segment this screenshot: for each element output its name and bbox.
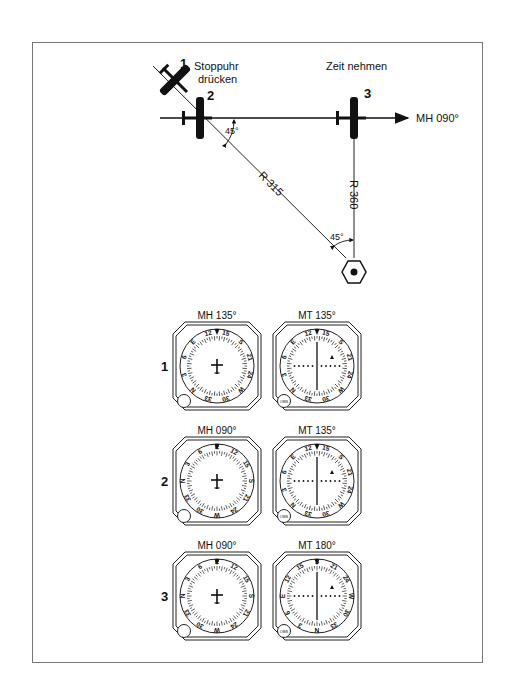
knob-icon (178, 395, 191, 408)
vor-caption-row-1: MT 135° (298, 310, 336, 321)
svg-text:N: N (314, 627, 319, 634)
navigation-diagram: 1 Stoppuhr drücken 2 Zeit nehmen 3 MH 09… (0, 0, 516, 699)
radial-360-label: R 360 (348, 180, 360, 209)
vor-caption-row-3: MT 180° (298, 540, 336, 551)
angle-label-top: 45° (225, 126, 239, 136)
svg-text:OBS: OBS (280, 514, 289, 519)
row-1-label: 1 (161, 359, 168, 374)
svg-text:N: N (179, 478, 186, 483)
position-2-label: 2 (207, 88, 214, 103)
svg-text:N: N (179, 593, 186, 598)
svg-text:OBS: OBS (280, 399, 289, 404)
radial-315-line (153, 66, 346, 258)
vor-indicator-row-1: N36E1215S2124W3033OBSMT 135° (264, 310, 371, 419)
row-2-label: 2 (161, 474, 168, 489)
airplane-position-3-icon (336, 97, 366, 139)
heading-indicator-row-1: N36E1215S2124W3033MH 135° (164, 310, 271, 419)
svg-text:OBS: OBS (280, 629, 289, 634)
svg-text:S: S (248, 594, 255, 599)
heading-indicator-row-2: N36E1215S2124W3033MH 090° (173, 425, 261, 525)
heading-caption-row-2: MH 090° (197, 425, 236, 436)
position-3-label: 3 (364, 86, 371, 101)
take-time-label: Zeit nehmen (326, 60, 387, 72)
svg-text:W: W (213, 627, 220, 634)
airplane-position-2-icon (182, 97, 212, 139)
vor-caption-row-2: MT 135° (298, 425, 336, 436)
row-3-label: 3 (161, 589, 168, 604)
position-1-label: 1 (180, 56, 187, 71)
svg-text:W: W (348, 593, 355, 600)
knob-icon (178, 625, 191, 638)
angle-label-bottom: 45° (330, 232, 344, 242)
svg-text:E: E (279, 593, 286, 598)
route-diagram: 1 Stoppuhr drücken 2 Zeit nehmen 3 MH 09… (150, 55, 459, 283)
heading-caption-row-3: MH 090° (197, 540, 236, 551)
heading-caption-row-1: MH 135° (197, 310, 236, 321)
knob-icon (178, 510, 191, 523)
stopwatch-label-line2: drücken (198, 73, 237, 85)
vor-station-icon (342, 261, 366, 283)
heading-label: MH 090° (416, 112, 459, 124)
airplane-position-1-icon (150, 55, 201, 106)
svg-text:S: S (248, 479, 255, 484)
radial-315-label: R 315 (257, 169, 286, 198)
svg-text:W: W (213, 512, 220, 519)
vor-indicator-row-3: N36E1215S2124W3033OBSMT 180° (273, 540, 361, 640)
stopwatch-label-line1: Stoppuhr (194, 60, 239, 72)
heading-indicator-row-3: N36E1215S2124W3033MH 090° (173, 540, 261, 640)
instrument-panel: 1N36E1215S2124W3033MH 135°N36E1215S2124W… (161, 310, 370, 640)
vor-indicator-row-2: N36E1215S2124W3033OBSMT 135° (264, 425, 371, 534)
